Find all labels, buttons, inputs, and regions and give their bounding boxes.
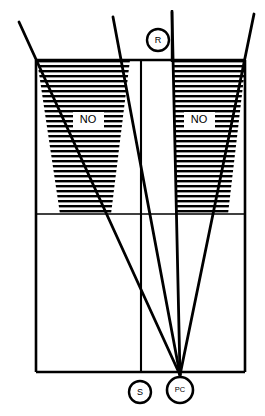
node-s: S	[129, 381, 151, 403]
sight-distance-diagram: NO NO R S PC	[0, 0, 265, 416]
left-no-zone-label: NO	[80, 113, 97, 125]
node-s-label: S	[137, 387, 143, 397]
right-no-zone-label: NO	[191, 113, 208, 125]
node-pc: PC	[167, 377, 193, 403]
node-r-label: R	[155, 35, 162, 45]
node-r: R	[147, 29, 169, 51]
node-pc-label: PC	[175, 385, 186, 394]
diagram-canvas: NO NO R S PC	[0, 0, 265, 416]
